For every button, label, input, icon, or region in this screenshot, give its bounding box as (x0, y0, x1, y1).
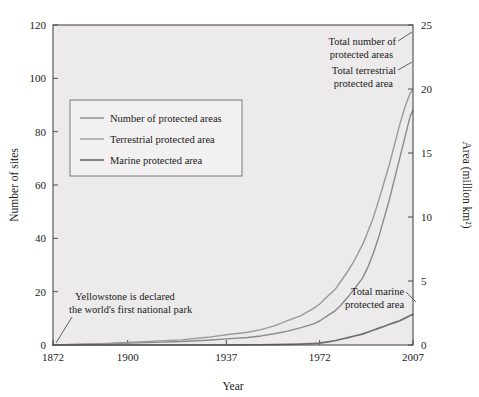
x-tick-label: 1872 (42, 351, 64, 363)
annotation-yellowstone-line1: Yellowstone is declared (75, 291, 176, 302)
y-axis-title: Number of sites (8, 148, 20, 222)
y2-tick-label: 20 (421, 83, 433, 95)
y2-tick-label: 5 (421, 275, 427, 287)
y-tick-label: 100 (30, 72, 47, 84)
y-tick-label: 40 (35, 232, 47, 244)
x-tick-label: 2007 (402, 351, 425, 363)
chart-figure: 18721900193719722007 020406080100120 051… (0, 0, 479, 397)
annotation-total-terrestrial-line1: Total terrestrial (332, 65, 396, 76)
chart-legend: Number of protected areas Terrestrial pr… (70, 100, 242, 176)
x-tick-label: 1937 (215, 351, 238, 363)
y-tick-label: 20 (35, 286, 47, 298)
y2-tick-label: 0 (421, 339, 427, 351)
y2-tick-label: 15 (421, 147, 433, 159)
annotation-total-number-line2: protected areas (330, 49, 393, 60)
y-tick-label: 80 (35, 126, 47, 138)
x-tick-label: 1972 (309, 351, 331, 363)
y2-axis-title: Area (million km²) (460, 141, 473, 228)
annotation-total-marine-line2: protected area (345, 299, 405, 310)
x-tick-label: 1900 (117, 351, 140, 363)
protected-areas-line-chart: 18721900193719722007 020406080100120 051… (0, 0, 479, 397)
x-axis-title: Year (222, 380, 243, 392)
y-tick-label: 60 (35, 179, 47, 191)
legend-label-marine-protected-area: Marine protected area (110, 155, 202, 166)
y2-tick-label: 10 (421, 211, 433, 223)
legend-label-terrestrial-protected-area: Terrestrial protected area (110, 134, 215, 145)
annotation-yellowstone-line2: the world's first national park (69, 304, 193, 315)
annotation-total-number-line1: Total number of (329, 36, 397, 47)
annotation-total-marine-line1: Total marine (351, 286, 405, 297)
annotation-total-terrestrial-line2: protected area (334, 78, 394, 89)
y2-tick-label: 25 (421, 19, 433, 31)
y-tick-label: 0 (41, 339, 47, 351)
y-tick-label: 120 (30, 19, 47, 31)
legend-label-number-of-protected-areas: Number of protected areas (110, 113, 222, 124)
